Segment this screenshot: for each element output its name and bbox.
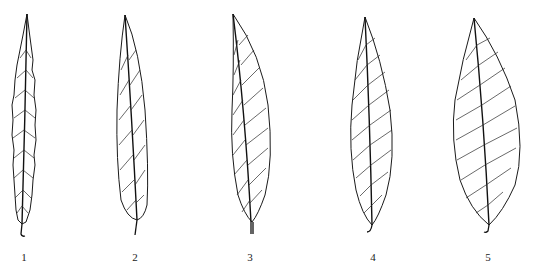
leaf-3-outline	[232, 14, 271, 222]
leaf-5-outline	[453, 18, 520, 225]
leaf-1-label: 1	[14, 251, 34, 263]
leaf-1-petiole	[21, 224, 25, 236]
leaf-4-midrib	[365, 17, 372, 225]
leaf-1-drawing	[12, 14, 36, 236]
leaf-2-label: 2	[125, 251, 145, 263]
leaf-3-petiole	[251, 222, 253, 234]
leaf-1-midrib	[22, 14, 27, 224]
leaf-2-petiole	[135, 220, 137, 235]
leaf-4-label: 4	[363, 251, 383, 263]
leaf-1-outline	[12, 14, 36, 224]
leaf-5-drawing	[453, 18, 520, 232]
leaf-3-label: 3	[240, 251, 260, 263]
leaf-4-petiole	[367, 225, 372, 232]
leaf-3-drawing	[232, 14, 271, 234]
leaf-2-drawing	[117, 15, 148, 235]
leaf-5-midrib	[474, 18, 489, 225]
leaf-5-label: 5	[478, 251, 498, 263]
leaf-figure	[0, 0, 533, 276]
leaf-4-drawing	[351, 17, 393, 232]
leaf-5-petiole	[484, 225, 489, 232]
leaf-2-outline	[117, 15, 148, 220]
leaf-3-midrib	[233, 14, 251, 222]
